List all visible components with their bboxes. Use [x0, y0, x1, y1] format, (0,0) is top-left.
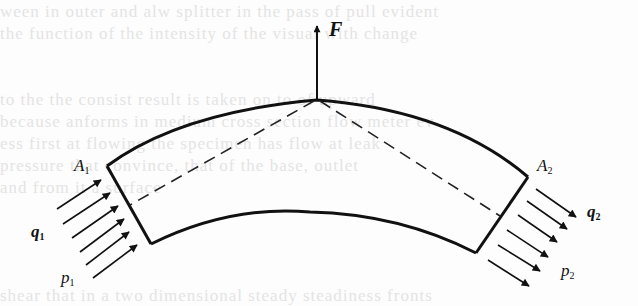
- inlet-flow-arrows: [57, 180, 137, 278]
- outlet-pressure-label: p2: [561, 262, 575, 281]
- inlet-flow-base: q: [31, 222, 40, 241]
- inlet-area-label: A1: [74, 157, 89, 176]
- outlet-pressure-sub: 2: [570, 270, 575, 281]
- inlet-flow-sub: 1: [40, 231, 45, 242]
- force-label: F: [329, 19, 342, 39]
- inlet-flow-label: q1: [31, 223, 45, 242]
- diagram-svg: [0, 0, 638, 306]
- inlet-area-sub: 1: [84, 165, 89, 176]
- inner-wall: [151, 211, 476, 253]
- outlet-area-base: A: [537, 156, 547, 175]
- pipe-bend-diagram: ween in outer and alw splitter in the pa…: [0, 0, 638, 306]
- outlet-flow-label: q2: [587, 203, 601, 222]
- outlet-flow-sub: 2: [596, 211, 601, 222]
- outer-wall: [107, 100, 528, 177]
- outlet-pressure-base: p: [561, 261, 570, 280]
- outlet-area-label: A2: [537, 157, 552, 176]
- outlet-section-a2: [476, 177, 528, 253]
- inlet-pressure-base: p: [61, 268, 70, 287]
- inlet-pressure-label: p1: [61, 269, 75, 288]
- inlet-pressure-sub: 1: [70, 277, 75, 288]
- outlet-flow-base: q: [587, 202, 596, 221]
- outlet-area-sub: 2: [547, 165, 552, 176]
- inlet-area-base: A: [74, 156, 84, 175]
- dashed-centerline-right: [320, 101, 500, 216]
